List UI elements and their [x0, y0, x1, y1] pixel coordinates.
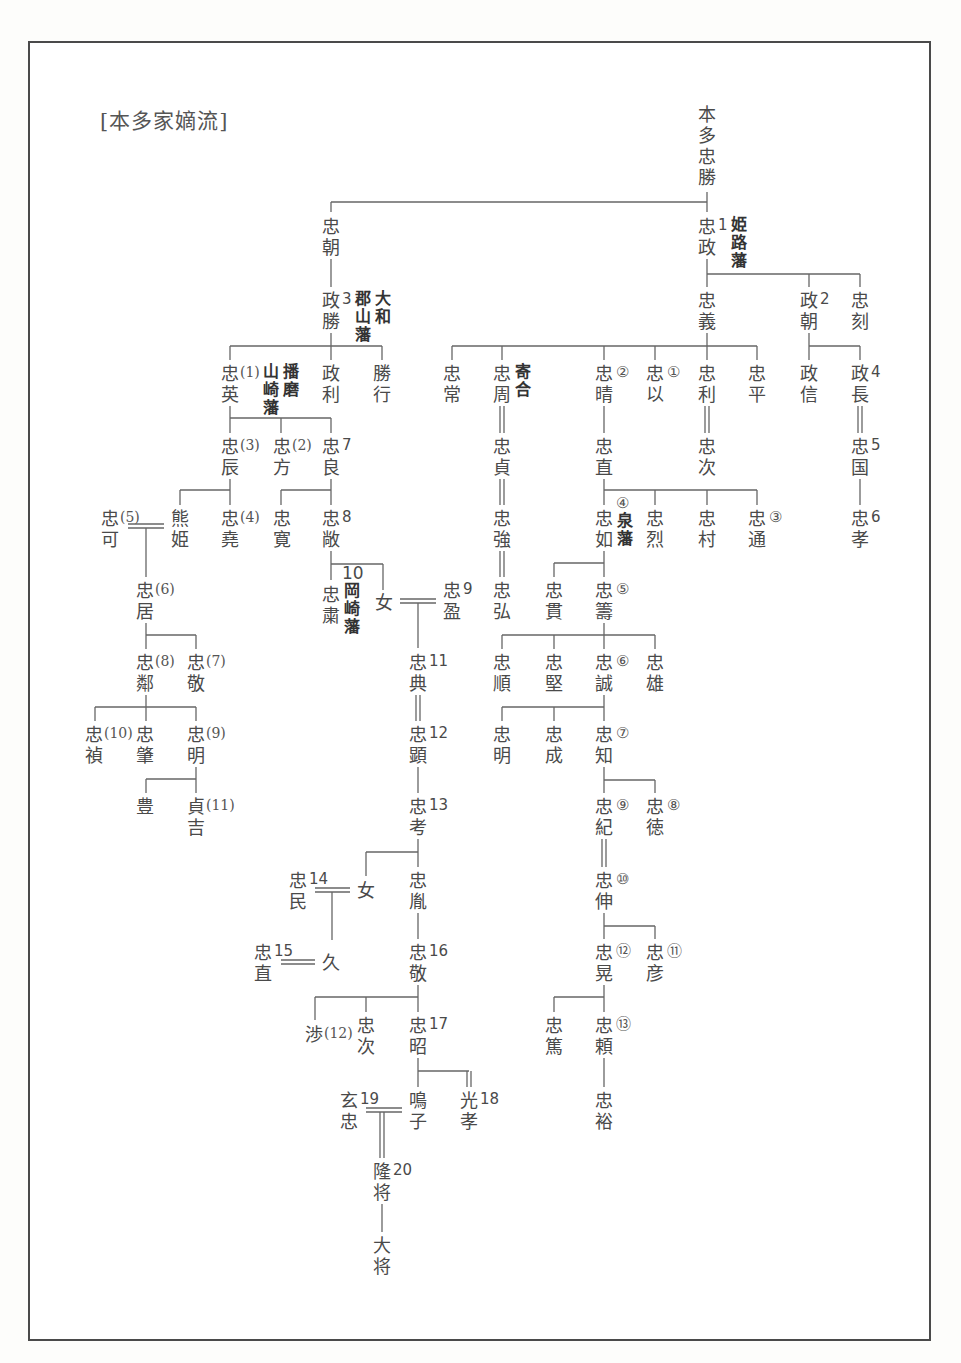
person-name: 忠孝: [850, 508, 870, 550]
person-name: 鳴子: [408, 1090, 428, 1132]
person-name: 光孝: [459, 1090, 479, 1132]
branch-number: ⑦: [616, 724, 629, 742]
lord-number: 3: [342, 290, 352, 308]
branch-number: (2): [292, 436, 312, 454]
person-node-tadatomo2: 忠知⑦: [594, 724, 629, 766]
person-name: 忠知: [594, 724, 614, 766]
person-node-yutaka: 豊: [135, 796, 155, 817]
person-name: 忠敬: [408, 942, 428, 984]
person-node-tadataka3: 忠敬(7): [186, 652, 226, 694]
person-node-tadayoshi3: 忠可(5): [100, 508, 140, 550]
person-name: 忠以: [645, 363, 665, 405]
lord-number: 13: [429, 796, 448, 814]
person-node-tadatsuyo: 忠強: [492, 508, 512, 550]
person-name: 忠考: [408, 796, 428, 838]
person-name: 忠村: [697, 508, 717, 550]
domain-label: 姫路藩: [728, 216, 748, 270]
person-name: 忠通: [747, 508, 767, 550]
person-name: 大将: [372, 1235, 392, 1277]
person-name: 忠方: [272, 436, 292, 478]
person-name: 忠粛: [321, 584, 341, 626]
person-name: 忠民: [288, 870, 308, 912]
person-node-tadaaki: 忠明(9): [186, 724, 226, 766]
person-node-masakatsu: 政勝3郡山藩大和: [321, 290, 392, 344]
person-name: 本多忠勝: [697, 104, 717, 188]
branch-number: ③: [769, 508, 782, 526]
person-node-meiko: 鳴子: [408, 1090, 428, 1132]
person-name: 忠盈: [442, 580, 462, 622]
branch-number: ②: [616, 363, 629, 381]
person-node-gentada: 玄忠19: [339, 1090, 379, 1132]
person-node-tadatsugu: 忠次: [697, 436, 717, 478]
person-node-tadatoki: 忠刻: [850, 290, 870, 332]
person-name: 忠堯: [220, 508, 240, 550]
branch-number: ⑤: [616, 580, 629, 598]
person-name: 忠鄰: [135, 652, 155, 694]
person-node-masatomo: 政朝2: [799, 290, 830, 332]
person-node-tadanori2: 忠紀⑨: [594, 796, 629, 838]
person-node-tadayasu: 忠烈: [645, 508, 665, 550]
person-name: 忠裕: [594, 1090, 614, 1132]
person-node-tadanori: 忠典11: [408, 652, 448, 694]
person-node-tadakiyo: 忠粛10岡崎藩: [321, 584, 364, 636]
person-name: 忠可: [100, 508, 120, 550]
person-name: 勝行: [372, 363, 392, 405]
person-name: 政勝: [321, 290, 341, 332]
person-node-masanaga: 政長4: [850, 363, 881, 405]
branch-number: ⑫: [616, 942, 631, 960]
person-node-hiromasa: 大将: [372, 1235, 392, 1277]
person-name: 豊: [135, 796, 155, 817]
branch-number: ⑪: [667, 942, 682, 960]
person-name: 忠貫: [544, 580, 564, 622]
person-name: 政信: [799, 363, 819, 405]
person-name: 忠朝: [321, 216, 341, 258]
person-name: 政長: [850, 363, 870, 405]
person-node-tadaharu: 忠晴②: [594, 363, 629, 405]
person-node-tadamitsu: 忠盈9: [442, 580, 473, 622]
person-name: 忠彦: [645, 942, 665, 984]
person-name: 忠直: [594, 436, 614, 478]
person-node-tadahiko: 忠彦⑪: [645, 942, 682, 984]
person-name: 忠刻: [850, 290, 870, 332]
person-node-hisa: 久: [321, 952, 341, 973]
person-name: 忠強: [492, 508, 512, 550]
person-node-kumahime: 熊姫: [170, 508, 190, 550]
branch-number: (8): [155, 652, 175, 670]
person-node-tadataka5: 忠敬16: [408, 942, 448, 984]
person-node-tadayoshi: 忠義: [697, 290, 717, 332]
person-name: 忠居: [135, 580, 155, 622]
person-node-tadahiro: 忠寛: [272, 508, 292, 550]
person-name: 忠肇: [135, 724, 155, 766]
lord-number: 14: [309, 870, 328, 888]
person-name: 忠典: [408, 652, 428, 694]
person-node-tadatomo: 忠朝: [321, 216, 341, 258]
person-name: 忠貞: [492, 436, 512, 478]
person-node-mitsutaka: 光孝18: [459, 1090, 499, 1132]
person-node-tadahiro2: 忠弘: [492, 580, 512, 622]
person-node-tadataka: 忠堯(4): [220, 508, 260, 550]
person-name: 久: [321, 952, 341, 973]
person-node-sadayoshi: 貞吉(11): [186, 796, 235, 838]
person-name: 忠直: [253, 942, 273, 984]
person-node-tadachika: 忠周寄合: [492, 363, 532, 405]
person-node-tadanao2: 忠直15: [253, 942, 293, 984]
lord-number: 9: [463, 580, 473, 598]
lord-number: 5: [871, 436, 881, 454]
person-node-tadatoshi3: 忠肇: [135, 724, 155, 766]
lord-number: 8: [342, 508, 352, 526]
person-node-tadatsune: 忠常: [442, 363, 462, 405]
person-name: 忠篤: [544, 1015, 564, 1057]
person-node-tadaatsu: 忠篤: [544, 1015, 564, 1057]
person-name: 忠敞: [321, 508, 341, 550]
person-node-tadamichi: 忠通③: [747, 508, 782, 550]
lord-number: 1: [718, 216, 728, 234]
domain-label: ④泉藩: [614, 508, 634, 548]
person-node-tadachika2: 忠鄰(8): [135, 652, 175, 694]
person-node-tadaoki: 忠居(6): [135, 580, 175, 622]
domain-label: 10岡崎藩: [341, 584, 364, 636]
person-node-tadatsugu2: 忠次: [356, 1015, 376, 1057]
person-name: 隆将: [372, 1161, 392, 1203]
branch-number: (11): [206, 796, 235, 814]
branch-number: ⑧: [667, 796, 680, 814]
person-node-tadayuki: 忠如④泉藩: [594, 508, 634, 550]
